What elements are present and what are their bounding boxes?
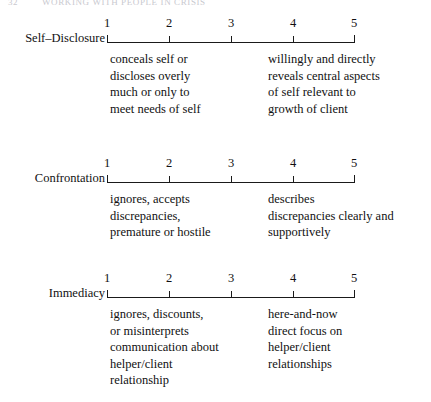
scale-label: Immediacy bbox=[49, 286, 105, 300]
axis-tick-label-5: 5 bbox=[345, 16, 363, 30]
scale-high-anchor-text: here-and-now direct focus on helper/clie… bbox=[268, 306, 430, 372]
axis-tick-label-4: 4 bbox=[284, 271, 302, 285]
scale-high-anchor-text: willingly and directly reveals central a… bbox=[268, 51, 430, 117]
axis-tick-label-2: 2 bbox=[160, 156, 178, 170]
axis-tick-4 bbox=[293, 176, 294, 183]
scale-low-anchor-text: ignores, discounts, or misinterprets com… bbox=[110, 306, 270, 389]
page-folio-number: 32 bbox=[8, 0, 18, 7]
axis-tick-5 bbox=[354, 175, 355, 183]
axis-tick-label-1: 1 bbox=[98, 271, 116, 285]
axis-tick-label-5: 5 bbox=[345, 156, 363, 170]
axis-tick-label-4: 4 bbox=[284, 156, 302, 170]
axis-tick-label-1: 1 bbox=[98, 16, 116, 30]
scale-label: Self–Disclosure bbox=[25, 31, 105, 45]
axis-tick-3 bbox=[231, 176, 232, 183]
axis-tick-label-1: 1 bbox=[98, 156, 116, 170]
scale-low-anchor-text: ignores, accepts discrepancies, prematur… bbox=[110, 191, 270, 241]
page-running-head: 32 WORKING WITH PEOPLE IN CRISIS bbox=[0, 0, 431, 9]
axis-tick-label-2: 2 bbox=[160, 271, 178, 285]
scale-axis: 1 2 3 4 5 bbox=[107, 297, 355, 298]
scale-axis: 1 2 3 4 5 bbox=[107, 182, 355, 183]
axis-tick-5 bbox=[354, 290, 355, 298]
axis-tick-label-4: 4 bbox=[284, 16, 302, 30]
axis-tick-label-2: 2 bbox=[160, 16, 178, 30]
axis-tick-2 bbox=[169, 36, 170, 43]
axis-tick-4 bbox=[293, 291, 294, 298]
axis-tick-label-3: 3 bbox=[222, 271, 240, 285]
running-title: WORKING WITH PEOPLE IN CRISIS bbox=[42, 0, 206, 7]
axis-tick-5 bbox=[354, 35, 355, 43]
scale-label: Confrontation bbox=[35, 171, 105, 185]
scale-axis: 1 2 3 4 5 bbox=[107, 42, 355, 43]
axis-tick-label-3: 3 bbox=[222, 156, 240, 170]
axis-tick-1 bbox=[107, 175, 108, 183]
axis-tick-label-5: 5 bbox=[345, 271, 363, 285]
scale-low-anchor-text: conceals self or discloses overly much o… bbox=[110, 51, 270, 117]
axis-tick-4 bbox=[293, 36, 294, 43]
axis-tick-2 bbox=[169, 176, 170, 183]
axis-tick-3 bbox=[231, 291, 232, 298]
axis-tick-1 bbox=[107, 35, 108, 43]
axis-tick-3 bbox=[231, 36, 232, 43]
axis-tick-label-3: 3 bbox=[222, 16, 240, 30]
axis-tick-1 bbox=[107, 290, 108, 298]
scale-high-anchor-text: describes discrepancies clearly and supp… bbox=[268, 191, 430, 241]
axis-tick-2 bbox=[169, 291, 170, 298]
